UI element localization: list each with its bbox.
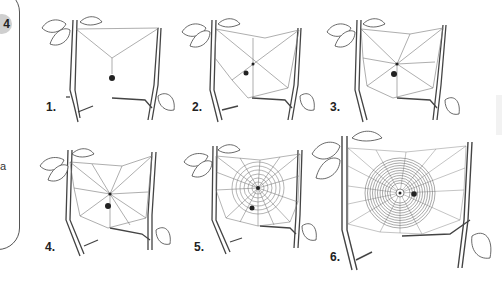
stage-4: 4. <box>30 130 180 283</box>
stage-label: 1. <box>46 100 56 114</box>
web-stage-5-illustration <box>170 130 320 283</box>
stage-5: 5. <box>170 130 320 283</box>
stage-label: 2. <box>192 100 202 114</box>
stage-label: 3. <box>330 100 340 114</box>
side-panel-text: a <box>0 160 6 172</box>
stage-2: 2. <box>170 0 320 130</box>
web-stage-4-illustration <box>30 130 180 283</box>
stage-6: 6. <box>310 120 502 283</box>
stage-3: 3. <box>315 0 465 130</box>
stage-1: 1. <box>30 0 180 130</box>
stage-label: 4. <box>45 240 55 254</box>
side-panel <box>0 0 20 250</box>
stage-label: 5. <box>194 240 204 254</box>
stage-label: 6. <box>330 250 340 264</box>
